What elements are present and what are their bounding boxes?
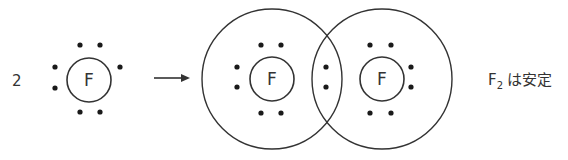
right-fluorine-atom: F xyxy=(360,42,414,115)
caption-text: は安定 xyxy=(507,71,552,89)
left-fluorine-atom: F xyxy=(234,42,294,115)
stability-caption: F2は安定 xyxy=(488,71,552,91)
electron-dot xyxy=(52,85,57,90)
product-f2-molecule: F F xyxy=(202,9,452,149)
formula-main: F xyxy=(488,71,497,89)
coefficient-label: 2 xyxy=(12,72,22,90)
electron-dot xyxy=(77,109,82,114)
fluorine-bond-diagram: 2 F F xyxy=(0,0,568,160)
shared-electron-pair xyxy=(323,64,328,89)
electron-dot xyxy=(77,42,82,47)
electron-dot xyxy=(117,64,122,69)
electron-dot xyxy=(52,64,57,69)
electron-dot xyxy=(97,109,102,114)
atom-symbol: F xyxy=(84,70,94,90)
formula-subscript: 2 xyxy=(497,80,503,91)
reactant-fluorine-atom: F xyxy=(52,42,122,114)
electron-dot xyxy=(97,42,102,47)
atom-symbol: F xyxy=(267,69,277,89)
atom-symbol: F xyxy=(377,69,387,89)
reaction-arrow-icon xyxy=(154,74,190,82)
lone-pair-electrons xyxy=(367,42,413,115)
